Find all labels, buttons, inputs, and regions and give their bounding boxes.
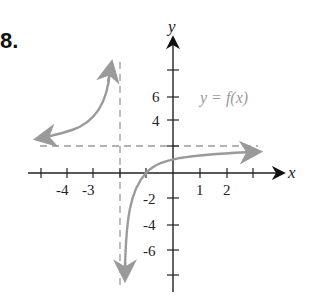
x-tick-label: -3	[82, 182, 95, 198]
y-tick-label: 6	[152, 89, 160, 105]
x-tick-label: 2	[223, 182, 231, 198]
right-branch-arrow-right	[245, 152, 256, 153]
y-tick-label: 4	[152, 113, 160, 129]
chart-svg: 8. -4 -3 1 2 6 4 -2 -4 -6 x y y = f(x)	[0, 0, 309, 308]
function-label: y = f(x)	[198, 89, 248, 107]
x-tick-label: 1	[196, 182, 204, 198]
chart-figure: 8. -4 -3 1 2 6 4 -2 -4 -6 x y y = f(x)	[0, 0, 309, 308]
left-branch-arrow-left	[40, 137, 48, 139]
x-axis-label: x	[287, 163, 296, 182]
problem-number: 8.	[0, 28, 18, 53]
y-tick-label: -6	[143, 243, 156, 259]
y-tick-label: -4	[143, 217, 156, 233]
y-axis-label: y	[166, 17, 176, 36]
y-tick-label: -2	[143, 191, 156, 207]
left-branch-curve	[42, 70, 110, 138]
x-tick-label: -4	[56, 182, 69, 198]
left-branch-arrow-up	[108, 66, 111, 82]
